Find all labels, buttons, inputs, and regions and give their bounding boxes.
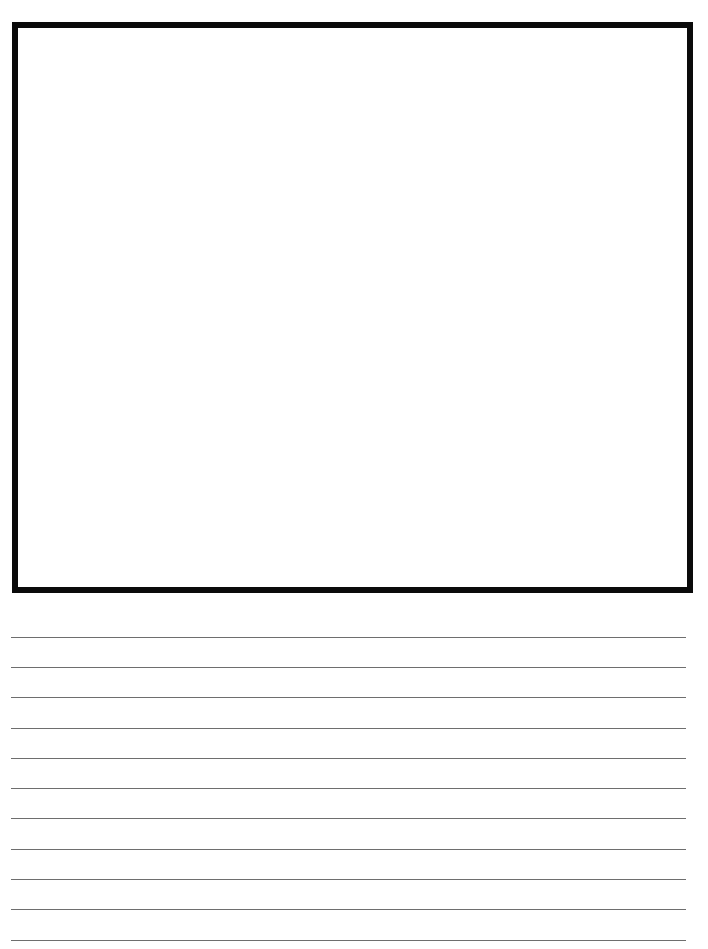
writing-line — [11, 849, 686, 850]
writing-line — [11, 697, 686, 698]
writing-line — [11, 788, 686, 789]
writing-line — [11, 637, 686, 638]
writing-line — [11, 879, 686, 880]
writing-line — [11, 728, 686, 729]
writing-lines — [11, 0, 686, 949]
writing-line — [11, 940, 686, 941]
writing-line — [11, 667, 686, 668]
writing-line — [11, 818, 686, 819]
writing-line — [11, 909, 686, 910]
writing-line — [11, 758, 686, 759]
